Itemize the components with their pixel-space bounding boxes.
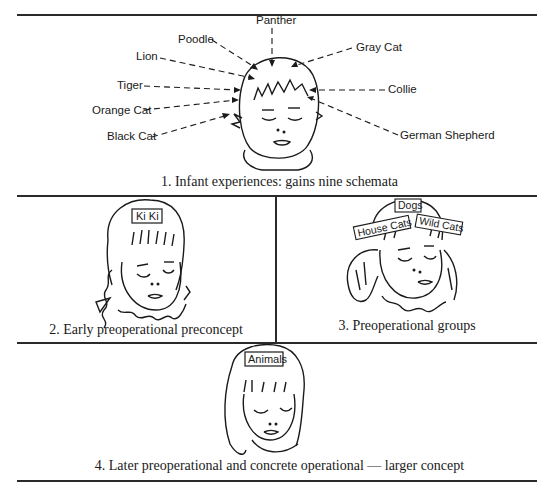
bob-haircut-girl-illustration xyxy=(0,0,559,498)
caption-panel-4: 4. Later preoperational and concrete ope… xyxy=(0,458,559,474)
tag-animals: Animals xyxy=(248,353,287,365)
